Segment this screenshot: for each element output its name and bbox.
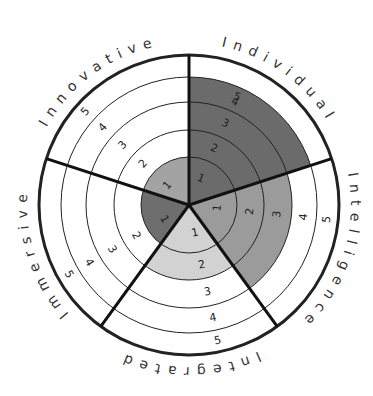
ring-label: 2 (243, 207, 257, 215)
ring-label: 3 (105, 243, 120, 256)
ring-label: 2 (136, 157, 150, 171)
segment-title-immersive: Immersive (14, 187, 71, 323)
ring-label: 1 (210, 204, 224, 212)
ring-label: 4 (208, 310, 218, 324)
ring-label: 4 (82, 256, 97, 269)
ring-label: 3 (203, 284, 213, 298)
ring-label: 2 (129, 229, 144, 242)
ring-label: 5 (320, 215, 334, 223)
ring-label: 4 (297, 213, 311, 221)
ring-label: 5 (213, 333, 223, 347)
ring-label: 5 (78, 105, 92, 119)
ring-label: 4 (96, 120, 110, 134)
five-i-sector-diagram: 1234512345123451234512345 IndividualInte… (0, 0, 373, 396)
ring-label: 3 (115, 138, 129, 152)
ring-label: 3 (270, 210, 284, 218)
ring-label: 5 (62, 268, 77, 281)
segment-title-integrated: Integrated (114, 349, 263, 380)
